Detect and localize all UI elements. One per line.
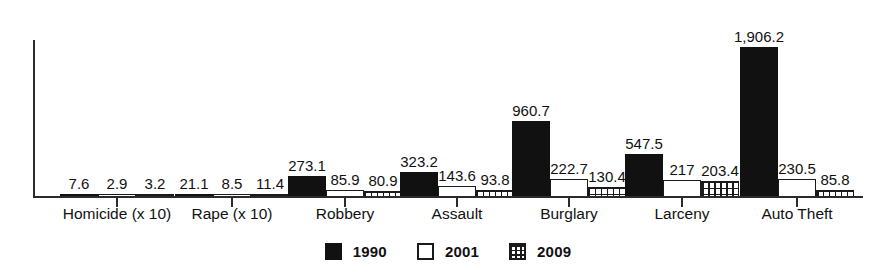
legend-item-1990: 1990 [325, 243, 387, 260]
bar-chart: 7.62.93.221.18.511.4273.185.980.9323.214… [0, 0, 896, 277]
legend-item-2009: 2009 [509, 243, 571, 260]
bar-value-label-larceny-1990: 547.5 [615, 136, 673, 151]
bar-larceny-2001 [663, 180, 701, 197]
category-label-assault: Assault [432, 205, 483, 222]
cross-hatch-swatch [509, 243, 526, 260]
x-axis-line [33, 196, 863, 198]
legend-item-2001: 2001 [417, 243, 479, 260]
white-outline-swatch [417, 243, 434, 260]
bar-value-label-burglary-1990: 960.7 [502, 103, 560, 118]
bar-value-label-robbery-1990: 273.1 [278, 158, 336, 173]
category-label-auto-theft: Auto Theft [761, 205, 832, 222]
category-label-homicide-x-10: Homicide (x 10) [63, 205, 172, 222]
bar-larceny-2009 [701, 181, 739, 197]
y-axis-line [33, 40, 35, 198]
category-label-larceny: Larceny [654, 205, 709, 222]
chart-legend: 199020012009 [0, 243, 896, 260]
bar-value-label-auto-theft-2009: 85.8 [806, 172, 864, 187]
legend-label-1990: 1990 [353, 244, 387, 259]
bar-value-label-auto-theft-1990: 1,906.2 [730, 29, 788, 44]
bar-burglary-1990 [512, 121, 550, 197]
legend-label-2001: 2001 [445, 244, 479, 259]
solid-black-swatch [325, 243, 342, 260]
plot-area: 7.62.93.221.18.511.4273.185.980.9323.214… [0, 0, 896, 197]
category-label-burglary: Burglary [540, 205, 598, 222]
legend-label-2009: 2009 [537, 244, 571, 259]
category-label-rape-x-10: Rape (x 10) [192, 205, 273, 222]
category-label-robbery: Robbery [316, 205, 375, 222]
